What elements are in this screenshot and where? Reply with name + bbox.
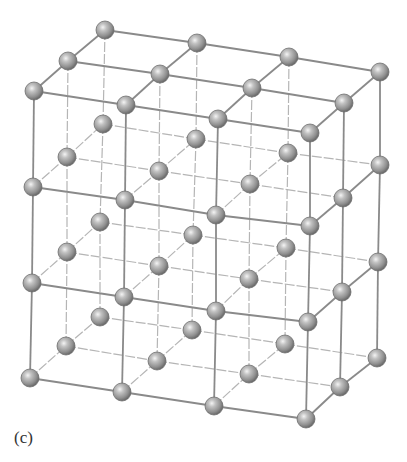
atom-sphere [59,52,77,70]
lattice-bond [125,200,216,215]
lattice-bond [216,311,308,322]
lattice-bond [67,252,159,266]
atom-sphere [207,302,225,320]
lattice-bond [343,103,344,198]
lattice-bond [157,266,159,361]
lattice-bond [288,153,380,165]
lattice-bond [216,119,218,215]
atom-sphere [209,110,227,128]
lattice-bond [122,297,124,392]
lattice-bond [249,184,250,279]
lattice-bond [218,119,310,133]
lattice-bond [122,392,214,406]
lattice-bond [103,124,196,139]
atom-sphere [280,48,298,66]
atom-sphere [151,65,169,83]
lattice-bond [192,235,193,330]
lattice-bond [159,74,160,171]
lattice-bond [67,157,159,171]
lattice-bond [100,124,103,222]
lattice-atoms [21,21,389,428]
atom-sphere [369,253,387,271]
lattice-bond [214,406,306,419]
atom-sphere [240,365,258,383]
lattice-bond [192,330,285,344]
atom-sphere [279,144,297,162]
lattice-bond [30,283,32,378]
atom-sphere [91,308,109,326]
lattice-bond [157,361,249,374]
lattice-bond [32,283,124,297]
atom-sphere [333,283,351,301]
lattice-bond [378,165,380,262]
lattice-bond [197,43,289,57]
atom-sphere [117,96,135,114]
lattice-bond [196,139,288,153]
atom-sphere [115,288,133,306]
lattice-bond [289,57,380,72]
atom-sphere [21,369,39,387]
atom-sphere [297,410,315,428]
lattice-bond [34,91,126,105]
lattice-bond [193,235,286,248]
atom-sphere [150,257,168,275]
lattice-bond [193,139,196,235]
atom-sphere [368,349,386,367]
lattice-bond [125,105,126,200]
lattice-bond [30,378,122,392]
figure-label: (c) [14,428,33,448]
lattice-bond [103,30,105,124]
lattice-bond [342,198,343,292]
lattice-bond [249,279,342,292]
lattice-bond [288,57,289,153]
cubic-lattice-diagram [0,0,407,462]
lattice-bond [66,346,157,361]
lattice-bond [306,322,308,419]
atom-sphere [91,213,109,231]
lattice-bond [285,248,286,344]
lattice-bond [33,91,34,187]
atom-sphere [116,191,134,209]
lattice-bond [250,88,252,184]
atom-sphere [277,239,295,257]
lattice-bond [68,61,160,74]
atom-sphere [25,82,43,100]
lattice-bonds-front [30,30,380,419]
atom-sphere [335,94,353,112]
atom-sphere [188,34,206,52]
atom-sphere [94,115,112,133]
lattice-bond [100,317,192,330]
lattice-bond [67,61,68,157]
atom-sphere [23,274,41,292]
atom-sphere [205,397,223,415]
atom-sphere [187,130,205,148]
lattice-bond [66,252,67,346]
atom-sphere [184,226,202,244]
atom-sphere [113,383,131,401]
lattice-bond [196,43,197,139]
atom-sphere [24,178,42,196]
lattice-bond [159,171,250,184]
lattice-bond [159,266,249,279]
lattice-bond [249,374,340,387]
atom-sphere [301,217,319,235]
lattice-bond [340,292,342,387]
atom-sphere [243,79,261,97]
lattice-bond [33,187,125,200]
atom-sphere [96,21,114,39]
lattice-bond [377,262,378,358]
atom-sphere [58,148,76,166]
lattice-bond [250,184,343,198]
atom-sphere [334,189,352,207]
lattice-bond [285,344,377,358]
lattice-bond [100,222,193,235]
atom-sphere [371,156,389,174]
atom-sphere [276,335,294,353]
lattice-bond [105,30,197,43]
atom-sphere [207,206,225,224]
atom-sphere [241,175,259,193]
atom-sphere [240,270,258,288]
atom-sphere [148,352,166,370]
lattice-bond [124,297,216,311]
lattice-bond [214,311,216,406]
